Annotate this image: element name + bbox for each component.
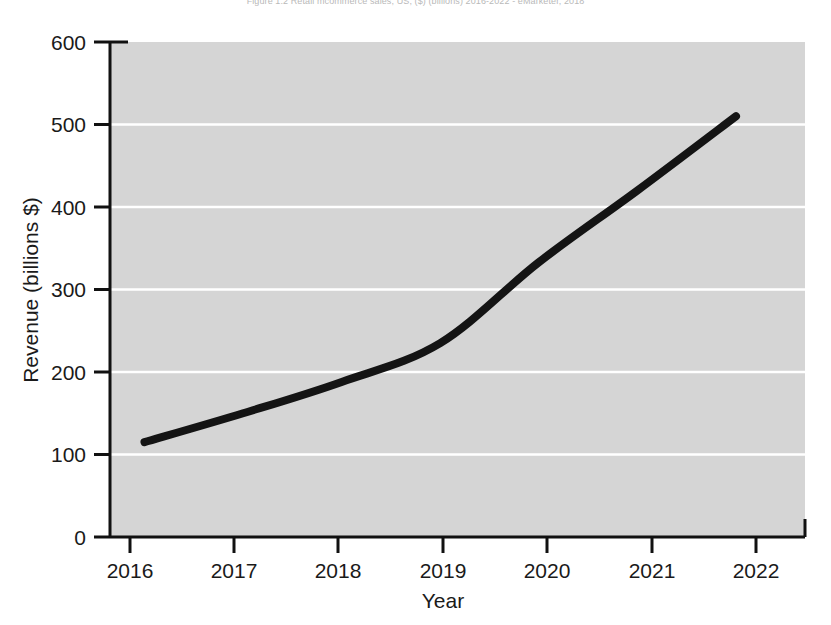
y-tick-label-600: 600 [51,31,86,54]
x-axis-ticks [130,537,756,553]
y-tick-label-100: 100 [51,443,86,466]
x-axis-title: Year [422,589,464,612]
x-tick-label-2021: 2021 [629,559,676,582]
x-tick-label-2018: 2018 [315,559,362,582]
x-tick-label-2019: 2019 [420,559,467,582]
line-chart: 0 100 200 300 400 500 600 2016 2017 2018… [0,0,831,625]
x-tick-label-2016: 2016 [107,559,154,582]
x-tick-label-2022: 2022 [733,559,780,582]
y-axis-ticks [94,42,110,537]
y-axis-tick-labels: 0 100 200 300 400 500 600 [51,31,86,549]
y-tick-label-400: 400 [51,196,86,219]
y-tick-label-300: 300 [51,278,86,301]
figure-container: Figure 1.2 Retail mcommerce sales, US, (… [0,0,831,625]
y-tick-label-500: 500 [51,113,86,136]
y-axis-title: Revenue (billions $) [19,197,42,383]
x-tick-label-2020: 2020 [524,559,571,582]
y-tick-label-200: 200 [51,361,86,384]
x-axis-tick-labels: 2016 2017 2018 2019 2020 2021 2022 [107,559,780,582]
x-tick-label-2017: 2017 [211,559,258,582]
y-tick-label-0: 0 [74,526,86,549]
